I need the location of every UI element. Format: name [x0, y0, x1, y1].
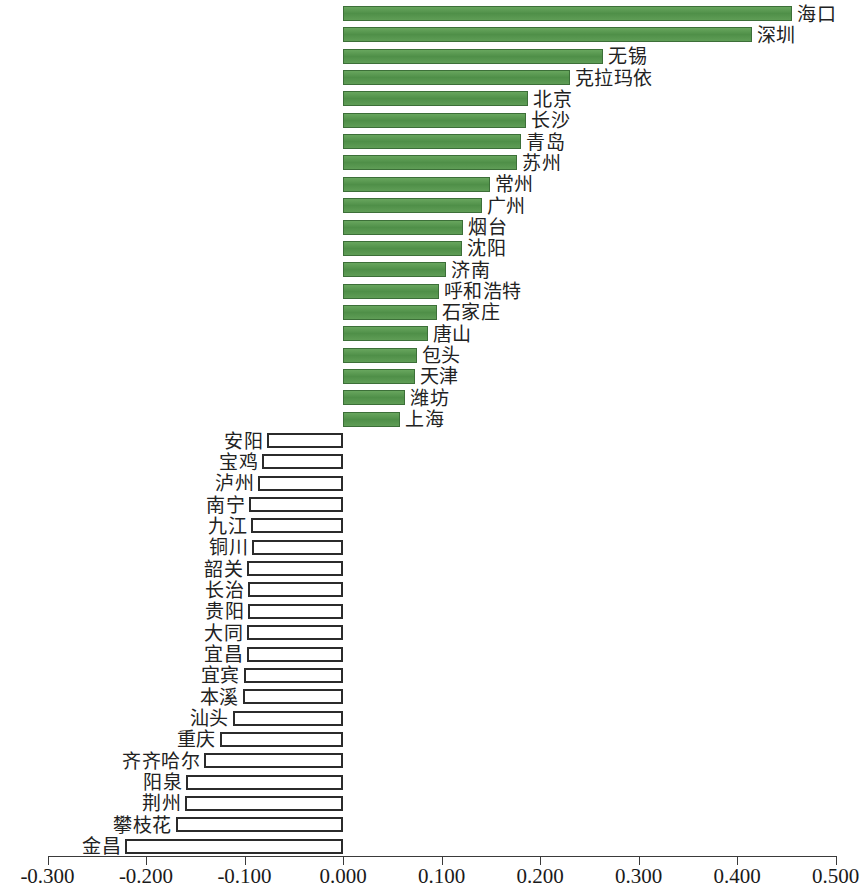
bar-row: 金昌 [0, 839, 865, 854]
bar-row: 长沙 [0, 113, 865, 128]
bar-row: 安阳 [0, 433, 865, 448]
bar-negative [233, 711, 343, 726]
bar-row: 常州 [0, 177, 865, 192]
bar-row: 青岛 [0, 134, 865, 149]
bar-row: 济南 [0, 262, 865, 277]
bar-negative [186, 775, 343, 790]
bar-category-label: 本溪 [200, 687, 239, 706]
bar-row: 九江 [0, 518, 865, 533]
bar-category-label: 攀枝花 [113, 815, 172, 834]
bar-negative [125, 839, 343, 854]
x-axis-tick-label: -0.200 [119, 866, 173, 887]
bar-category-label: 大同 [204, 623, 243, 642]
bar-category-label: 上海 [405, 410, 444, 429]
bar-row: 石家庄 [0, 305, 865, 320]
bar-category-label: 长治 [205, 580, 244, 599]
bar-positive [343, 134, 521, 149]
bar-row: 本溪 [0, 689, 865, 704]
bar-row: 宜宾 [0, 668, 865, 683]
bar-row: 无锡 [0, 49, 865, 64]
bar-category-label: 天津 [420, 367, 459, 386]
bar-negative [247, 561, 343, 576]
bar-positive [343, 326, 428, 341]
bar-category-label: 金昌 [82, 837, 121, 856]
bar-category-label: 荆州 [142, 794, 181, 813]
bar-positive [343, 91, 528, 106]
bar-negative [176, 817, 343, 832]
bar-category-label: 韶关 [204, 559, 243, 578]
bar-negative [244, 668, 343, 683]
x-axis-tick-label: 0.300 [615, 866, 662, 887]
bar-negative [185, 796, 343, 811]
bar-row: 潍坊 [0, 390, 865, 405]
x-axis-tick-label: -0.300 [20, 866, 74, 887]
bar-row: 铜川 [0, 540, 865, 555]
bar-category-label: 宝鸡 [219, 452, 258, 471]
bar-row: 苏州 [0, 155, 865, 170]
x-axis-tick-label: 0.400 [713, 866, 760, 887]
bar-category-label: 海口 [797, 4, 836, 23]
bar-category-label: 青岛 [526, 132, 565, 151]
bar-row: 上海 [0, 412, 865, 427]
bar-chart: 海口深圳无锡克拉玛依北京长沙青岛苏州常州广州烟台沈阳济南呼和浩特石家庄唐山包头天… [0, 0, 865, 895]
bar-positive [343, 390, 405, 405]
bar-row: 阳泉 [0, 775, 865, 790]
x-axis-tick-label: 0.200 [516, 866, 563, 887]
bar-negative [247, 625, 343, 640]
bar-row: 海口 [0, 6, 865, 21]
bar-row: 深圳 [0, 27, 865, 42]
plot-area: 海口深圳无锡克拉玛依北京长沙青岛苏州常州广州烟台沈阳济南呼和浩特石家庄唐山包头天… [0, 0, 865, 856]
bar-category-label: 深圳 [757, 25, 796, 44]
bar-negative [220, 732, 343, 747]
bar-category-label: 石家庄 [442, 303, 501, 322]
bar-positive [343, 177, 490, 192]
bar-row: 宜昌 [0, 647, 865, 662]
bar-positive [343, 412, 400, 427]
bar-row: 南宁 [0, 497, 865, 512]
bar-category-label: 无锡 [608, 47, 647, 66]
bar-positive [343, 220, 463, 235]
bar-row: 荆州 [0, 796, 865, 811]
x-axis-tick-label: -0.100 [217, 866, 271, 887]
bar-row: 大同 [0, 625, 865, 640]
bar-row: 广州 [0, 198, 865, 213]
bar-category-label: 克拉玛依 [575, 68, 653, 87]
bar-category-label: 汕头 [190, 709, 229, 728]
bar-negative [243, 689, 343, 704]
bar-positive [343, 369, 415, 384]
bar-category-label: 呼和浩特 [444, 282, 522, 301]
bar-category-label: 宜宾 [201, 666, 240, 685]
bar-negative [249, 497, 343, 512]
bar-positive [343, 49, 603, 64]
bar-positive [343, 155, 517, 170]
bar-category-label: 北京 [533, 89, 572, 108]
x-axis-tick-label: 0.100 [418, 866, 465, 887]
bar-negative [251, 518, 343, 533]
bar-row: 北京 [0, 91, 865, 106]
bar-positive [343, 348, 417, 363]
bar-row: 泸州 [0, 476, 865, 491]
bar-row: 汕头 [0, 711, 865, 726]
bar-category-label: 长沙 [531, 111, 570, 130]
bar-row: 克拉玛依 [0, 70, 865, 85]
bar-category-label: 安阳 [224, 431, 263, 450]
bar-category-label: 常州 [495, 175, 534, 194]
bar-positive [343, 305, 437, 320]
bar-positive [343, 198, 482, 213]
bar-row: 沈阳 [0, 241, 865, 256]
x-axis-tick-label: 0.000 [319, 866, 366, 887]
bar-category-label: 烟台 [468, 218, 507, 237]
bar-row: 宝鸡 [0, 454, 865, 469]
bar-category-label: 铜川 [209, 538, 248, 557]
bar-positive [343, 284, 439, 299]
bar-category-label: 齐齐哈尔 [122, 751, 200, 770]
bar-category-label: 宜昌 [204, 645, 243, 664]
bar-category-label: 重庆 [177, 730, 216, 749]
bar-positive [343, 113, 526, 128]
bar-negative [204, 753, 343, 768]
bar-row: 天津 [0, 369, 865, 384]
bar-positive [343, 27, 752, 42]
bar-positive [343, 6, 792, 21]
bar-category-label: 包头 [422, 346, 461, 365]
bar-positive [343, 241, 462, 256]
